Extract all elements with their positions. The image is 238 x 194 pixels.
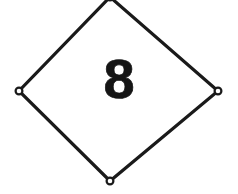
placard-canvas: 8 (0, 0, 238, 194)
eyelet-bottom-icon (107, 178, 114, 185)
hazard-class-number: 8 (0, 51, 238, 107)
